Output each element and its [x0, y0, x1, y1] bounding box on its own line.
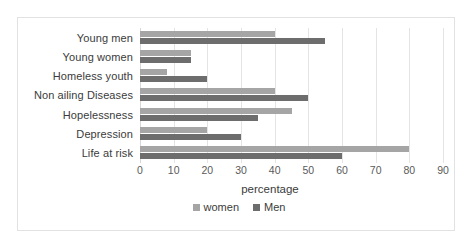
bar-women [140, 88, 275, 94]
bar-row [140, 144, 443, 163]
bar-women [140, 31, 275, 37]
legend-swatch-icon [193, 204, 200, 211]
category-label: Hopelessness [18, 105, 139, 124]
bar-row [140, 67, 443, 86]
bar-men [140, 95, 308, 101]
x-tick-label: 60 [336, 164, 348, 176]
bar-women [140, 127, 207, 133]
x-axis-title: percentage [18, 183, 456, 195]
category-label: Depression [18, 124, 139, 143]
gridline [443, 28, 444, 163]
x-tick-label: 40 [269, 164, 281, 176]
bar-women [140, 108, 292, 114]
category-label: Young men [18, 28, 139, 47]
x-tick-label: 30 [235, 164, 247, 176]
bar-row [140, 124, 443, 143]
bar-men [140, 76, 207, 82]
bar-rows [140, 28, 443, 163]
legend-label: women [204, 201, 239, 213]
bar-women [140, 69, 167, 75]
bar-row [140, 47, 443, 66]
bar-row [140, 28, 443, 47]
bar-men [140, 153, 342, 159]
x-tick-label: 70 [370, 164, 382, 176]
chart-plot-wrapper: Young menYoung womenHomeless youthNon ai… [18, 18, 456, 232]
bar-women [140, 146, 409, 152]
bar-row [140, 105, 443, 124]
x-tick-label: 0 [137, 164, 143, 176]
legend-entry[interactable]: women [193, 201, 239, 213]
chart-legend: womenMen [18, 201, 456, 213]
category-axis: Young menYoung womenHomeless youthNon ai… [18, 28, 139, 163]
x-tick-label: 80 [403, 164, 415, 176]
category-label: Homeless youth [18, 67, 139, 86]
x-tick-label: 10 [168, 164, 180, 176]
x-axis-ticks: 0102030405060708090 [140, 164, 443, 180]
bar-men [140, 57, 191, 63]
legend-swatch-icon [253, 204, 260, 211]
chart-frame: Young menYoung womenHomeless youthNon ai… [17, 17, 455, 231]
x-tick-label: 20 [201, 164, 213, 176]
bar-men [140, 134, 241, 140]
category-label: Life at risk [18, 144, 139, 163]
bar-women [140, 50, 191, 56]
legend-label: Men [264, 201, 285, 213]
bar-men [140, 38, 325, 44]
category-label: Non ailing Diseases [18, 86, 139, 105]
bar-men [140, 115, 258, 121]
category-label: Young women [18, 47, 139, 66]
x-tick-label: 90 [437, 164, 449, 176]
plot-area [140, 28, 443, 163]
legend-entry[interactable]: Men [253, 201, 285, 213]
x-tick-label: 50 [302, 164, 314, 176]
bar-row [140, 86, 443, 105]
